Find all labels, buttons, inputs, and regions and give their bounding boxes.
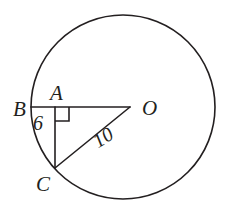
point-label-a: A: [50, 83, 63, 104]
length-label-ac: 6: [33, 113, 43, 133]
geometry-canvas: [0, 0, 230, 215]
right-angle-marker-at-A: [55, 107, 69, 121]
point-label-c: C: [36, 174, 50, 195]
point-label-o: O: [142, 98, 157, 119]
geometry-figure: B A O C 6 10: [0, 0, 230, 215]
point-label-b: B: [13, 99, 26, 120]
